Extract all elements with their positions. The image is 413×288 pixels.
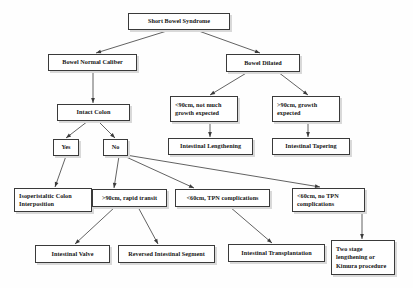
node-reversed[interactable]: Reversed Intestinal Segment — [118, 245, 215, 263]
edge-sbs-to-dilated — [196, 30, 260, 53]
node-yes[interactable]: Yes — [53, 139, 79, 156]
arrowhead-icon — [91, 98, 95, 103]
edge-sbs-to-normal — [96, 30, 170, 53]
arrowhead-icon — [55, 182, 59, 187]
node-label: Isoperistaltic Colon Interposition — [19, 192, 89, 208]
node-label: Intestinal Tapering — [275, 142, 347, 150]
arrowhead-icon — [360, 234, 364, 239]
edge-notpn-to-twostage — [360, 212, 364, 239]
arrowhead-icon — [96, 50, 101, 54]
edge-dilated-to-gt90 — [278, 72, 308, 95]
edge-dilated-to-lt90 — [210, 72, 248, 95]
arrowhead-icon — [208, 132, 212, 137]
node-label: >90cm, growth expected — [277, 101, 337, 117]
node-transplant[interactable]: Intestinal Transplantation — [228, 244, 325, 262]
node-label: <60cm, no TPN complications — [297, 192, 362, 208]
node-label: Bowel Normal Caliber — [51, 58, 134, 66]
edge-no-to-rapid — [113, 156, 119, 188]
arrowhead-icon — [189, 184, 194, 188]
arrowhead-icon — [210, 91, 215, 95]
edge-yes-to-isoperi — [55, 156, 66, 187]
node-sbs[interactable]: Short Bowel Syndrome — [128, 13, 230, 30]
node-label: Two stage lengthening or Kimura procedur… — [336, 245, 392, 270]
node-isoperi[interactable]: Isoperistaltic Colon Interposition — [14, 188, 92, 212]
node-label: Intestinal Valve — [38, 250, 107, 258]
node-lt90[interactable]: <90cm, not much growth expected — [170, 96, 238, 122]
node-label: >90cm, rapid transit — [95, 194, 164, 202]
arrowhead-icon — [154, 239, 158, 244]
node-taper[interactable]: Intestinal Tapering — [272, 138, 350, 155]
edge-rapid-to-reversed — [138, 207, 158, 244]
edge-lt90-to-lengthen — [208, 122, 212, 137]
node-lengthen[interactable]: Intestinal Lengthening — [168, 138, 253, 155]
node-no[interactable]: No — [103, 139, 128, 156]
node-notpn[interactable]: <60cm, no TPN complications — [292, 188, 365, 212]
arrowhead-icon — [303, 90, 308, 95]
node-label: Bowel Dilated — [229, 59, 297, 67]
arrowhead-icon — [306, 132, 310, 137]
node-normal[interactable]: Bowel Normal Caliber — [48, 54, 137, 71]
node-gt90[interactable]: >90cm, growth expected — [272, 96, 340, 122]
node-twostage[interactable]: Two stage lengthening or Kimura procedur… — [331, 240, 395, 275]
node-label: Intestinal Transplantation — [231, 249, 322, 257]
node-label: <90cm, not much growth expected — [175, 101, 235, 117]
node-label: <60cm, TPN complications — [178, 194, 267, 202]
node-tpn[interactable]: <60cm, TPN complications — [175, 189, 270, 207]
arrowhead-icon — [255, 50, 260, 54]
edge-intact-to-no — [98, 121, 115, 138]
edge-no-to-notpn — [126, 155, 320, 188]
node-rapid[interactable]: >90cm, rapid transit — [92, 189, 167, 207]
flowchart-canvas: Short Bowel SyndromeBowel Normal Caliber… — [0, 0, 413, 288]
node-label: Short Bowel Syndrome — [131, 17, 227, 25]
node-label: Intact Colon — [60, 108, 127, 116]
node-label: No — [106, 143, 125, 151]
edge-intact-to-yes — [66, 121, 88, 138]
edge-tpn-to-transplant — [230, 207, 272, 243]
edge-normal-to-intact — [91, 71, 95, 103]
edge-gt90-to-taper — [306, 122, 310, 137]
node-label: Intestinal Lengthening — [171, 142, 250, 150]
node-valve[interactable]: Intestinal Valve — [35, 245, 110, 263]
arrowhead-icon — [66, 133, 71, 138]
node-dilated[interactable]: Bowel Dilated — [226, 54, 300, 72]
node-intact[interactable]: Intact Colon — [57, 104, 130, 121]
node-label: Yes — [56, 143, 76, 151]
node-label: Reversed Intestinal Segment — [121, 250, 212, 258]
arrowhead-icon — [113, 183, 117, 188]
